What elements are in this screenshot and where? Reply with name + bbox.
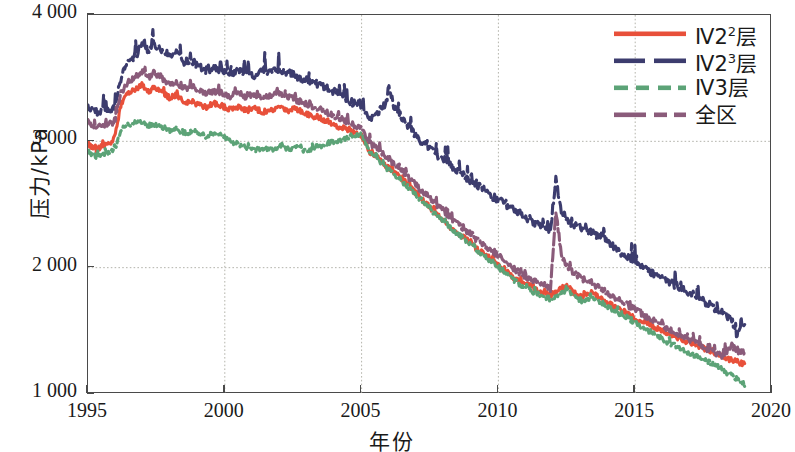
y-axis-tick-label: 2 000	[0, 253, 77, 276]
x-axis-tick-label: 2005	[316, 399, 406, 422]
legend-item[interactable]: Ⅳ3层	[614, 76, 774, 100]
y-axis-title: 压力/kPa	[23, 93, 53, 253]
legend-color-swatch	[614, 22, 686, 46]
y-axis-tick-mark	[87, 13, 94, 15]
x-axis-title: 年份	[0, 425, 783, 452]
series-line	[88, 121, 745, 387]
x-axis-tick-mark	[633, 385, 635, 393]
legend-item[interactable]: Ⅳ23层	[614, 49, 774, 73]
legend-item[interactable]: 全区	[614, 103, 774, 127]
y-axis-tick-mark	[87, 266, 94, 268]
x-axis-tick-mark	[223, 385, 225, 393]
legend-label: Ⅳ22层	[695, 20, 757, 49]
x-axis-tick-label: 2000	[179, 399, 269, 422]
x-axis-tick-mark	[86, 385, 88, 393]
y-axis-tick-label: 4 000	[0, 0, 77, 23]
x-axis-tick-mark	[497, 385, 499, 393]
legend-label: Ⅳ3层	[695, 76, 749, 100]
legend-label: Ⅳ23层	[695, 47, 757, 76]
x-axis-tick-label: 2020	[726, 399, 795, 422]
chart-legend: Ⅳ22层Ⅳ23层Ⅳ3层全区	[614, 22, 774, 130]
legend-label: 全区	[695, 103, 737, 127]
x-axis-tick-label: 1995	[42, 399, 132, 422]
legend-color-swatch	[614, 49, 686, 73]
x-axis-tick-mark	[360, 385, 362, 393]
legend-color-swatch	[614, 103, 686, 127]
x-axis-tick-mark	[770, 385, 772, 393]
x-axis-tick-label: 2015	[589, 399, 679, 422]
y-axis-tick-mark	[87, 140, 94, 142]
y-axis-tick-mark	[87, 392, 94, 394]
legend-color-swatch	[614, 76, 686, 100]
x-axis-tick-label: 2010	[452, 399, 542, 422]
y-axis-tick-label: 3 000	[0, 126, 77, 149]
legend-item[interactable]: Ⅳ22层	[614, 22, 774, 46]
